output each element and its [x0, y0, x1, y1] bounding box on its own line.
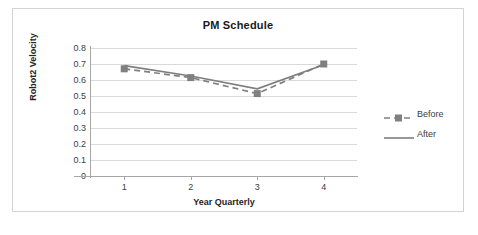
data-point-marker [254, 90, 261, 97]
legend-key-after [384, 129, 414, 139]
series-line-before [124, 64, 324, 94]
legend-item-before[interactable]: Before [384, 104, 464, 124]
legend-label-after: After [417, 129, 436, 139]
legend-key-before [384, 109, 414, 119]
legend-label-before: Before [417, 109, 444, 119]
legend-item-after[interactable]: After [384, 124, 464, 144]
chart-legend: Before After [384, 104, 464, 144]
